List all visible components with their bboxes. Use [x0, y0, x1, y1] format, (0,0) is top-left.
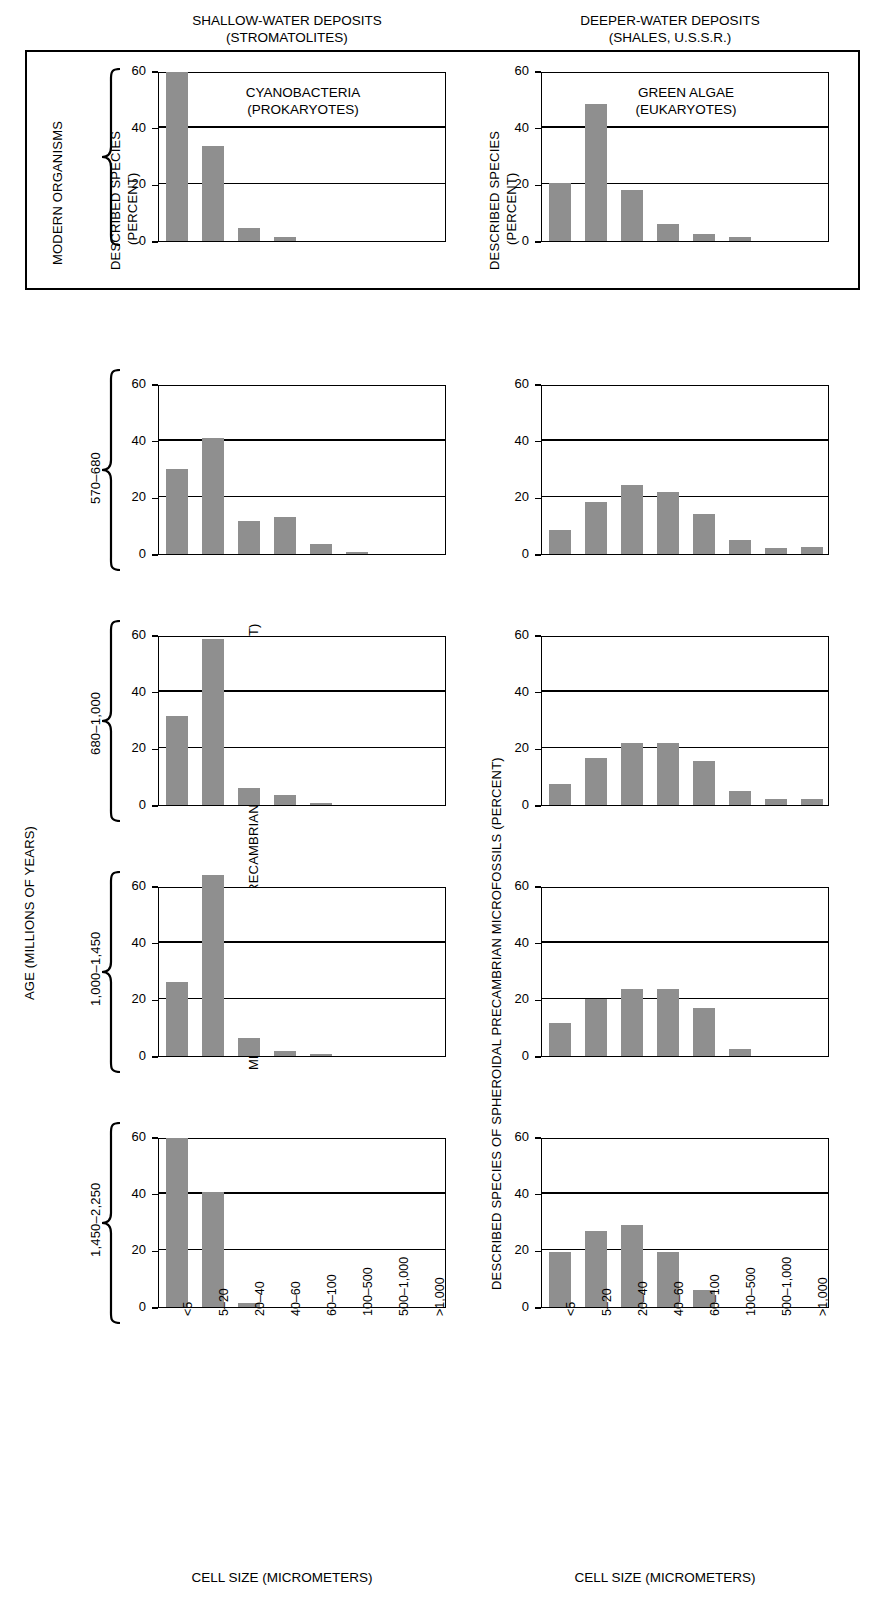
y-tick-label: 40: [503, 684, 529, 699]
y-tick-mark: [535, 943, 541, 944]
y-tick-mark: [152, 241, 158, 242]
y-tick-mark: [152, 886, 158, 887]
y-tick-mark: [535, 1307, 541, 1308]
bar: [274, 795, 296, 805]
y-tick-mark: [535, 441, 541, 442]
panel-title: GREEN ALGAE(EUKARYOTES): [601, 84, 771, 118]
bar: [310, 1054, 332, 1056]
y-tick-mark: [152, 805, 158, 806]
y-tick-label: 0: [503, 797, 529, 812]
bar: [274, 517, 296, 554]
y-tick-label: 0: [120, 797, 146, 812]
bar: [202, 438, 224, 554]
y-tick-mark: [152, 1056, 158, 1057]
panel-title-line1: CYANOBACTERIA: [218, 84, 388, 101]
y-tick-label: 20: [503, 740, 529, 755]
y-tick-label: 0: [503, 546, 529, 561]
x-tick-label: 100–500: [361, 1267, 375, 1316]
y-tick-mark: [152, 1307, 158, 1308]
column-header-left: SHALLOW-WATER DEPOSITS (STROMATOLITES): [122, 12, 452, 46]
xaxis-title-left: CELL SIZE (MICROMETERS): [117, 1570, 447, 1585]
bar: [202, 875, 224, 1056]
bar: [274, 1051, 296, 1056]
y-tick-label: 20: [503, 1242, 529, 1257]
y-tick-mark: [535, 1251, 541, 1252]
age-brace: [100, 1122, 122, 1324]
bar: [693, 1008, 715, 1056]
x-tick-label: 40–60: [672, 1281, 686, 1316]
y-tick-label: 0: [120, 1048, 146, 1063]
y-tick-mark: [535, 128, 541, 129]
y-tick-label: 20: [503, 176, 529, 191]
bar: [549, 1023, 571, 1056]
bar: [310, 544, 332, 554]
y-tick-mark: [535, 554, 541, 555]
column-header-right: DEEPER-WATER DEPOSITS (SHALES, U.S.S.R.): [505, 12, 835, 46]
bar: [765, 799, 787, 805]
y-tick-label: 40: [120, 935, 146, 950]
bar: [549, 784, 571, 805]
bar: [166, 1138, 188, 1307]
x-tick-label: 20–40: [636, 1281, 650, 1316]
y-tick-mark: [535, 241, 541, 242]
y-tick-label: 20: [503, 991, 529, 1006]
bar: [729, 540, 751, 554]
y-tick-mark: [152, 441, 158, 442]
bar: [585, 999, 607, 1056]
y-tick-label: 20: [120, 1242, 146, 1257]
y-tick-mark: [152, 71, 158, 72]
y-tick-mark: [535, 1056, 541, 1057]
bar: [238, 788, 260, 805]
x-tick-label: 500–1,000: [397, 1257, 411, 1316]
bar: [621, 743, 643, 805]
y-tick-label: 60: [120, 63, 146, 78]
x-tick-label: <5: [181, 1302, 195, 1316]
bar: [202, 146, 224, 241]
bar: [202, 639, 224, 805]
panel-title-line2: (PROKARYOTES): [218, 101, 388, 118]
bar: [729, 237, 751, 241]
y-tick-mark: [152, 635, 158, 636]
y-tick-mark: [152, 692, 158, 693]
x-tick-label: 40–60: [289, 1281, 303, 1316]
age-label: 680–1,000: [88, 692, 103, 755]
y-tick-label: 40: [120, 120, 146, 135]
bar: [657, 492, 679, 554]
y-tick-label: 20: [120, 489, 146, 504]
bar: [238, 521, 260, 554]
age-brace: [100, 68, 122, 246]
age-brace: [100, 620, 122, 822]
y-tick-label: 0: [503, 1299, 529, 1314]
chart-panel: [541, 887, 829, 1057]
y-tick-label: 20: [120, 176, 146, 191]
bar: [585, 758, 607, 805]
bar: [274, 237, 296, 241]
y-tick-mark: [535, 71, 541, 72]
y-tick-label: 60: [120, 627, 146, 642]
chart-panel: [158, 887, 446, 1057]
y-tick-label: 20: [120, 991, 146, 1006]
x-tick-label: <5: [564, 1302, 578, 1316]
y-tick-label: 40: [120, 1186, 146, 1201]
bar: [693, 234, 715, 241]
y-tick-label: 0: [120, 546, 146, 561]
gridline: [542, 941, 828, 942]
y-tick-label: 40: [503, 433, 529, 448]
bar: [801, 547, 823, 554]
panel-title-line1: GREEN ALGAE: [601, 84, 771, 101]
y-tick-label: 60: [120, 1129, 146, 1144]
x-tick-label: 20–40: [253, 1281, 267, 1316]
bar: [657, 743, 679, 805]
y-tick-label: 40: [503, 935, 529, 950]
chart-panel: [158, 636, 446, 806]
bar: [621, 989, 643, 1056]
y-tick-mark: [535, 805, 541, 806]
y-tick-mark: [535, 1137, 541, 1138]
x-tick-label: 500–1,000: [780, 1257, 794, 1316]
chart-panel: [158, 385, 446, 555]
age-brace: [100, 871, 122, 1073]
y-tick-label: 0: [503, 1048, 529, 1063]
x-tick-label: >1,000: [816, 1277, 830, 1316]
x-tick-label: >1,000: [433, 1277, 447, 1316]
y-tick-label: 20: [120, 740, 146, 755]
